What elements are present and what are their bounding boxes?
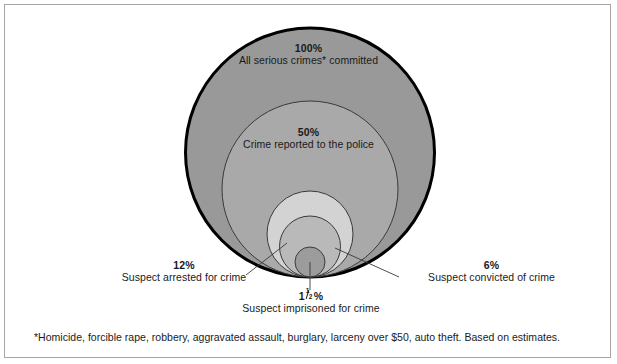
label-arrested-12: 12% Suspect arrested for crime	[104, 259, 264, 284]
label-imprisoned-percent-sign: %	[314, 290, 323, 302]
fraction-denominator: 2	[309, 294, 313, 301]
label-arrested-description: Suspect arrested for crime	[104, 271, 264, 283]
label-total-100: 100% All serious crimes* committed	[0, 42, 617, 67]
label-imprisoned-1half: 112% Suspect imprisoned for crime	[222, 290, 400, 315]
label-total-percent: 100%	[0, 42, 617, 54]
label-imprisoned-description: Suspect imprisoned for crime	[222, 302, 400, 314]
label-arrested-percent: 12%	[104, 259, 264, 271]
label-reported-percent: 50%	[0, 126, 617, 138]
label-imprisoned-percent: 112%	[222, 290, 400, 302]
label-convicted-description: Suspect convicted of crime	[404, 271, 579, 283]
label-reported-description: Crime reported to the police	[0, 138, 617, 150]
figure-footnote: *Homicide, forcible rape, robbery, aggra…	[34, 331, 560, 343]
label-convicted-6: 6% Suspect convicted of crime	[404, 259, 579, 284]
label-total-description: All serious crimes* committed	[0, 54, 617, 66]
label-reported-50: 50% Crime reported to the police	[0, 126, 617, 151]
label-convicted-percent: 6%	[404, 259, 579, 271]
crime-funnel-figure: 100% All serious crimes* committed 50% C…	[0, 0, 617, 364]
fraction-one-half-glyph: 12	[305, 290, 314, 300]
